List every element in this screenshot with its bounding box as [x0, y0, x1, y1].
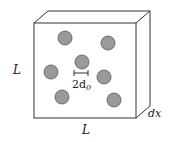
slab-diagram: 2d0 L L dx — [0, 0, 171, 142]
thickness-label: dx — [148, 107, 162, 120]
width-label: L — [81, 123, 90, 137]
particles — [44, 31, 121, 107]
particle-circle — [55, 90, 69, 104]
side-face-edge — [136, 11, 150, 118]
particle-circle — [75, 55, 89, 69]
top-face-edge — [34, 11, 150, 23]
spacing-label-sub: 0 — [86, 83, 91, 92]
particle-circle — [58, 31, 72, 45]
particle-circle — [101, 36, 115, 50]
spacing-label-base: 2d — [72, 78, 86, 91]
spacing-indicator — [74, 70, 88, 76]
particle-circle — [107, 93, 121, 107]
spacing-label: 2d0 — [72, 78, 91, 92]
particle-circle — [44, 65, 58, 79]
height-label: L — [12, 63, 21, 77]
particle-circle — [97, 70, 111, 84]
slab-box — [34, 11, 150, 118]
